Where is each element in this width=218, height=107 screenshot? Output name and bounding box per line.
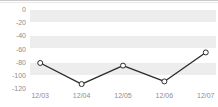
x-tick-label: 12/06 <box>156 92 174 100</box>
plot-area <box>30 9 216 88</box>
series-line-1 <box>30 9 216 88</box>
x-tick-label: 12/05 <box>114 92 132 100</box>
y-tick-label: -120 <box>12 85 26 92</box>
x-axis-tick-labels: 12/0312/0412/0512/0612/07 <box>30 92 216 104</box>
y-tick-label: -20 <box>16 19 26 26</box>
y-axis-tick-labels: 0-20-40-60-80-100-120 <box>0 0 28 107</box>
y-tick-label: -80 <box>16 58 26 65</box>
data-point-marker <box>162 79 167 84</box>
data-point-marker <box>79 82 84 87</box>
top-divider <box>0 0 218 1</box>
data-point-marker <box>121 63 126 68</box>
y-tick-label: 0 <box>22 6 26 13</box>
x-tick-label: 12/03 <box>31 92 49 100</box>
data-point-marker <box>38 60 43 65</box>
top-divider-secondary <box>0 2 218 3</box>
y-tick-label: -60 <box>16 45 26 52</box>
data-point-marker <box>203 50 208 55</box>
x-tick-label: 12/07 <box>197 92 215 100</box>
y-tick-label: -100 <box>12 71 26 78</box>
y-tick-label: -40 <box>16 32 26 39</box>
line-chart: 0-20-40-60-80-100-120 12/0312/0412/0512/… <box>0 0 218 107</box>
x-tick-label: 12/04 <box>73 92 91 100</box>
